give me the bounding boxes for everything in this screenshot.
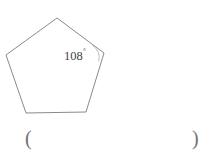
pentagon-outline [6,18,104,113]
close-paren: ) [192,126,199,150]
degree-symbol-icon: ° [83,47,86,55]
angle-arc-indicator [93,46,100,62]
answer-blank[interactable]: ( ) [0,126,205,154]
angle-value-label: 108 [64,49,83,63]
open-paren: ( [25,126,32,150]
